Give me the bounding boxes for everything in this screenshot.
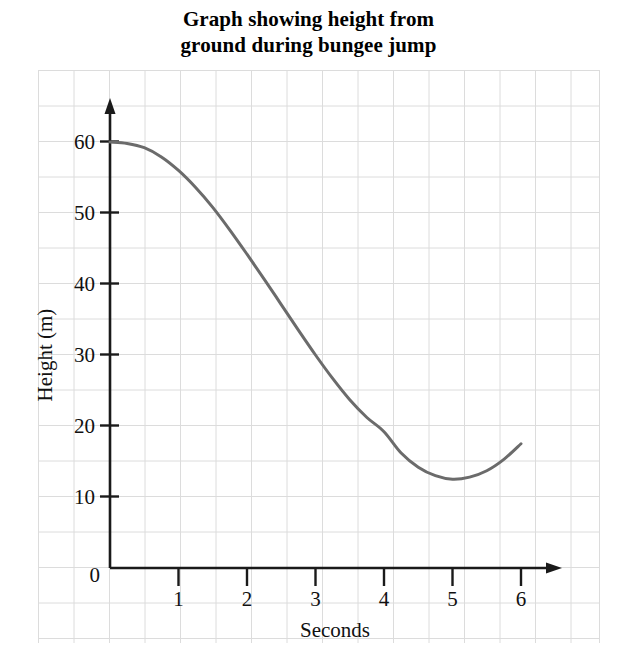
y-tick-label-30: 30 (74, 343, 95, 367)
x-tick-label-5: 5 (447, 587, 458, 611)
y-tick-label-0: 0 (90, 563, 101, 587)
x-tick-label-2: 2 (242, 587, 253, 611)
y-axis-title: Height (m) (33, 309, 57, 402)
bungee-jump-line-chart: 60 50 40 30 20 10 0 1 2 3 4 5 6 Seconds … (0, 0, 617, 667)
grid-background (38, 70, 600, 643)
x-tick-label-3: 3 (310, 587, 321, 611)
y-tick-label-40: 40 (74, 272, 95, 296)
y-tick-label-60: 60 (74, 130, 95, 154)
x-tick-label-1: 1 (173, 587, 184, 611)
x-tick-label-4: 4 (379, 587, 390, 611)
x-axis-title: Seconds (300, 618, 370, 642)
y-tick-label-10: 10 (74, 485, 95, 509)
graph-paper-grid (38, 70, 600, 643)
y-tick-label-20: 20 (74, 414, 95, 438)
chart-page: Graph showing height from ground during … (0, 0, 617, 667)
y-tick-label-50: 50 (74, 201, 95, 225)
x-tick-label-6: 6 (516, 587, 527, 611)
